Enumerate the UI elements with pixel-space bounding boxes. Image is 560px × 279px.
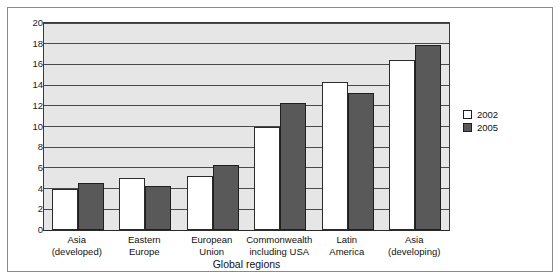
y-axis-tick-label: 8 <box>17 142 43 151</box>
x-axis-category-label: Asia(developing) <box>381 234 449 257</box>
category-label-line: Europe <box>111 246 179 258</box>
bar-2002[interactable] <box>119 178 145 230</box>
y-axis-tick-label: 18 <box>17 39 43 48</box>
bar-group <box>247 103 315 230</box>
category-label-line: Union <box>178 246 246 258</box>
legend-item-2002[interactable]: 2002 <box>463 108 498 121</box>
bar-2005[interactable] <box>280 103 306 230</box>
bar-2002[interactable] <box>322 82 348 230</box>
x-axis-category-label: Asia(developed) <box>43 234 111 257</box>
legend-label-2002: 2002 <box>477 109 498 120</box>
category-label-line: Commonwealth <box>246 234 314 246</box>
category-label-line: Asia <box>43 234 111 246</box>
y-axis-tick-label: 14 <box>17 80 43 89</box>
bar-group <box>44 183 112 230</box>
bar-group <box>179 165 247 230</box>
x-axis-category-label: Commonwealthincluding USA <box>246 234 314 257</box>
bar-2002[interactable] <box>52 189 78 230</box>
y-axis-tick-label: 6 <box>17 163 43 172</box>
dark-square-icon <box>463 123 472 132</box>
bar-2005[interactable] <box>415 45 441 230</box>
category-label-line: European <box>178 234 246 246</box>
category-label-line: Latin <box>313 234 381 246</box>
bar-2002[interactable] <box>389 60 415 230</box>
x-axis-category-label: LatinAmerica <box>313 234 381 257</box>
bar-group <box>112 178 180 230</box>
x-axis-category-label: EuropeanUnion <box>178 234 246 257</box>
bar-2005[interactable] <box>78 183 104 230</box>
y-axis-tick-label: 12 <box>17 101 43 110</box>
bar-2002[interactable] <box>187 176 213 230</box>
x-axis-category-label: EasternEurope <box>111 234 179 257</box>
y-axis-tick-label: 16 <box>17 59 43 68</box>
category-label-line: Eastern <box>111 234 179 246</box>
category-label-line: including USA <box>246 246 314 258</box>
y-axis-tick-label: 4 <box>17 184 43 193</box>
bar-2002[interactable] <box>254 127 280 231</box>
y-axis: 02468101214161820 <box>10 22 43 232</box>
chart-legend: 2002 2005 <box>463 108 498 134</box>
gridline <box>44 23 449 24</box>
category-label-line: America <box>313 246 381 258</box>
y-axis-tick-label: 2 <box>17 204 43 213</box>
bar-2005[interactable] <box>213 165 239 230</box>
category-label-line: Asia <box>381 234 449 246</box>
y-axis-tick-label: 0 <box>17 225 43 234</box>
bar-group <box>314 82 382 230</box>
x-axis-title: Global regions <box>43 258 450 270</box>
bar-chart-figure: 02468101214161820 Asia(developed)Eastern… <box>0 0 560 279</box>
legend-item-2005[interactable]: 2005 <box>463 121 498 134</box>
y-axis-tick-label: 10 <box>17 122 43 131</box>
legend-label-2005: 2005 <box>477 122 498 133</box>
bar-2005[interactable] <box>145 186 171 231</box>
bar-2005[interactable] <box>348 93 374 230</box>
category-label-line: (developed) <box>43 246 111 258</box>
category-label-line: (developing) <box>381 246 449 258</box>
bar-group <box>382 45 450 230</box>
plot-area <box>43 22 450 231</box>
white-square-icon <box>463 110 472 119</box>
y-axis-tick-label: 20 <box>17 18 43 27</box>
